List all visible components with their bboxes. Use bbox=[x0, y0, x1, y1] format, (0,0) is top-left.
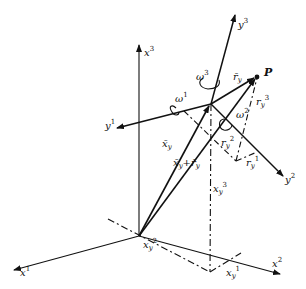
y3-axis bbox=[211, 15, 235, 104]
point-p-dot bbox=[255, 75, 260, 80]
omega1-label: ω1 bbox=[175, 94, 188, 104]
xy3-label: xy3 bbox=[213, 184, 227, 194]
omega2-label: ω2 bbox=[236, 110, 249, 120]
y1-axis bbox=[117, 104, 211, 128]
x-bar-y-label: x̄y bbox=[162, 139, 172, 149]
ry1-label: ry1 bbox=[246, 158, 259, 168]
point-p-label: P bbox=[264, 67, 272, 78]
x2-axis bbox=[139, 236, 280, 274]
x1-axis bbox=[14, 236, 139, 270]
x1-axis-label: x1 bbox=[20, 268, 30, 278]
ry2-label: ry2 bbox=[221, 138, 234, 148]
ry2-component bbox=[184, 111, 236, 161]
x-bar-y-vector bbox=[139, 106, 209, 236]
x2-axis-label: x2 bbox=[272, 259, 282, 269]
ry3-label: ry3 bbox=[256, 97, 269, 107]
y3-axis-label: y3 bbox=[238, 20, 248, 30]
omega3-label: ω3 bbox=[196, 72, 209, 82]
xy2-label: xy2 bbox=[143, 240, 157, 250]
xy3-projection bbox=[210, 104, 211, 272]
xy2-projection bbox=[108, 219, 210, 272]
y1-axis-label: y1 bbox=[105, 121, 115, 131]
r-bar-y-label: r̄y bbox=[233, 72, 242, 82]
x3-axis-label: x3 bbox=[144, 48, 154, 58]
y2-axis-label: y2 bbox=[285, 175, 295, 185]
xy1-label: xy1 bbox=[226, 268, 240, 278]
sum-vector-label: x̄y+r̄y bbox=[173, 158, 200, 168]
